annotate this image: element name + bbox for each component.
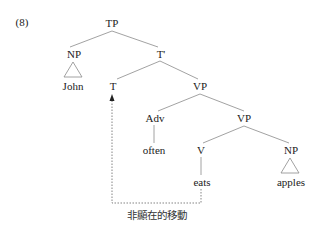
node-vp-upper: VP: [193, 80, 207, 92]
node-vp-lower: VP: [237, 112, 251, 124]
branch-vp-np: [244, 126, 289, 143]
branch-vp-adv: [158, 94, 200, 111]
arrowhead-icon: [110, 94, 115, 101]
leaf-eats: eats: [193, 176, 210, 188]
node-t: T: [110, 80, 117, 92]
leaf-apples: apples: [277, 176, 305, 188]
node-np-object: NP: [284, 144, 298, 156]
branch-tbar-t: [117, 61, 160, 79]
node-tp: TP: [106, 17, 119, 29]
movement-label: 非顯在的移動: [127, 209, 187, 221]
node-np-subject: NP: [67, 48, 81, 60]
np-john-triangle: [64, 62, 82, 77]
branch-tp-tbar: [112, 31, 158, 47]
branch-tp-np: [70, 31, 112, 47]
branch-vp-v: [203, 126, 244, 143]
example-number: (8): [16, 16, 29, 28]
node-t-bar: T': [157, 48, 166, 60]
node-v: V: [197, 144, 205, 156]
np-apples-triangle: [281, 158, 299, 173]
leaf-john: John: [63, 80, 84, 92]
leaf-often: often: [143, 144, 166, 156]
node-adv: Adv: [146, 112, 165, 124]
branch-tbar-vp: [160, 61, 198, 79]
branch-vp-vp: [200, 94, 244, 111]
